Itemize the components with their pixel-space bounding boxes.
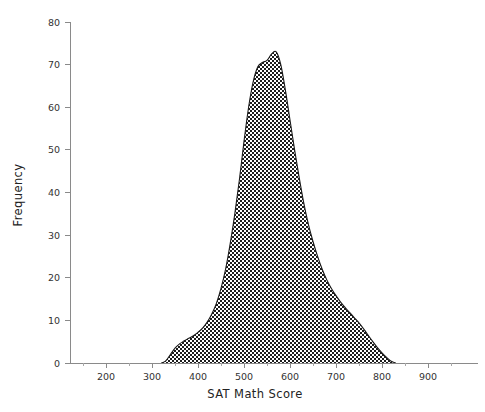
y-axis-title: Frequency (11, 163, 25, 226)
x-axis-tick-label: 400 (189, 371, 207, 382)
x-axis-title: SAT Math Score (207, 387, 302, 401)
y-axis-tick-label: 10 (48, 315, 60, 326)
y-axis-tick-label: 30 (48, 230, 60, 241)
density-chart: 200300400500600700800900 010203040506070… (0, 0, 485, 412)
y-axis-tick-label: 60 (48, 102, 60, 113)
x-axis-tick-label: 300 (143, 371, 161, 382)
y-axis-tick-label: 80 (48, 17, 60, 28)
x-axis-tick-label: 500 (235, 371, 253, 382)
chart-figure: 200300400500600700800900 010203040506070… (0, 0, 485, 412)
x-axis-tick-label: 200 (97, 371, 115, 382)
x-axis-tick-label: 600 (281, 371, 299, 382)
y-axis-tick-label: 50 (48, 144, 60, 155)
x-axis-tick-label: 900 (419, 371, 437, 382)
y-axis-tick-label: 70 (48, 59, 60, 70)
y-axis-tick-label: 20 (48, 272, 60, 283)
x-axis-tick-label: 800 (373, 371, 391, 382)
y-axis-tick-label: 0 (54, 358, 60, 369)
x-axis-tick-label: 700 (327, 371, 345, 382)
y-axis-tick-label: 40 (48, 187, 60, 198)
